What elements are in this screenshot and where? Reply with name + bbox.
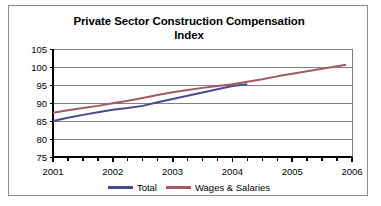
- y-axis-label: 90: [36, 98, 47, 109]
- legend-swatch-wages-salaries: [166, 186, 191, 189]
- x-axis-label: 2004: [222, 166, 243, 177]
- x-axis-label: 2002: [102, 166, 123, 177]
- chart-legend: Total Wages & Salaries: [9, 182, 369, 193]
- plot-area: 7580859095100105200120022003200420052006: [9, 6, 369, 197]
- x-axis-label: 2001: [42, 166, 63, 177]
- legend-entry-wages-salaries: Wages & Salaries: [166, 182, 270, 193]
- legend-swatch-total: [108, 186, 133, 189]
- x-axis-label: 2006: [341, 166, 362, 177]
- y-axis-label: 80: [36, 134, 47, 145]
- chart-plot-svg: 7580859095100105200120022003200420052006: [9, 6, 369, 197]
- series-line-wages-salaries: [53, 65, 346, 113]
- y-axis-label: 75: [36, 152, 47, 163]
- y-axis-label: 85: [36, 116, 47, 127]
- legend-entry-total: Total: [108, 182, 157, 193]
- x-axis-label: 2005: [282, 166, 303, 177]
- chart-container: Private Sector Construction Compensation…: [8, 5, 368, 196]
- y-axis-label: 100: [31, 62, 47, 73]
- legend-label-wages-salaries: Wages & Salaries: [195, 182, 270, 193]
- y-axis-label: 105: [31, 44, 47, 55]
- x-axis-label: 2003: [162, 166, 183, 177]
- y-axis-label: 95: [36, 80, 47, 91]
- legend-label-total: Total: [137, 182, 157, 193]
